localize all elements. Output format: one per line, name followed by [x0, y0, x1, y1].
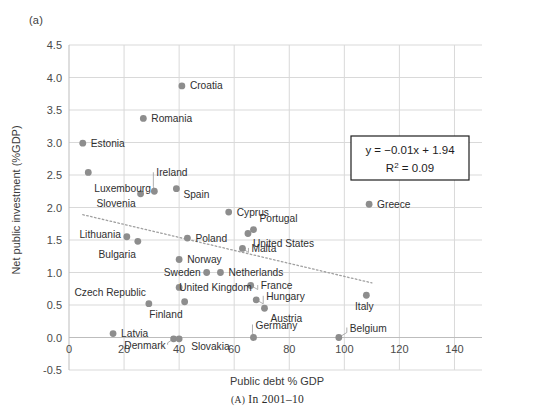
data-point-label: Slovenia: [96, 198, 135, 209]
data-point-label: Italy: [355, 301, 375, 312]
data-point-label: Greece: [377, 199, 411, 210]
data-point-marker: [176, 335, 183, 342]
y-tick-label: 1.5: [47, 234, 62, 246]
data-point-label: Latvia: [121, 328, 149, 339]
data-point-label: Estonia: [91, 138, 125, 149]
data-point-marker: [123, 233, 130, 240]
data-point-marker: [184, 235, 191, 242]
data-point-marker: [261, 305, 268, 312]
data-point-label: Portugal: [259, 213, 297, 224]
data-point-marker: [145, 300, 152, 307]
data-point-marker: [85, 169, 92, 176]
data-point-label: Norway: [187, 254, 222, 265]
equation-line: y = −0.01x + 1.94: [365, 144, 455, 156]
x-axis-title: Public debt % GDP: [230, 375, 324, 387]
data-point-marker: [250, 226, 257, 233]
data-point-label: Belgium: [350, 323, 387, 334]
scatter-plot: -0.50.00.51.01.52.02.53.03.54.04.5 02040…: [0, 0, 535, 392]
data-point-marker: [225, 209, 232, 216]
figure-caption: (A) In 2001–10: [0, 392, 535, 407]
regression-equation-box: y = −0.01x + 1.94 R2 = 0.09: [351, 136, 469, 180]
data-point-label: Bulgaria: [98, 249, 136, 260]
data-point-label: Czech Republic: [74, 287, 145, 298]
data-point-label: Romania: [151, 113, 192, 124]
data-point-marker: [203, 269, 210, 276]
y-tick-label: 2.5: [47, 169, 62, 181]
data-point-marker: [335, 334, 342, 341]
y-tick-label: -0.5: [43, 364, 62, 376]
data-point-label: Luxembourg: [94, 183, 151, 194]
data-point-label: Sweden: [164, 267, 201, 278]
y-tick-label: 3.0: [47, 137, 62, 149]
y-tick-label: 3.5: [47, 104, 62, 116]
x-tick-label: 60: [228, 343, 240, 355]
caption-text: In 2001–10: [248, 393, 304, 405]
y-axis-tick-labels: -0.50.00.51.01.52.02.53.03.54.04.5: [43, 39, 62, 376]
y-tick-label: 1.0: [47, 267, 62, 279]
y-tick-label: 4.5: [47, 39, 62, 51]
y-tick-label: 4.0: [47, 72, 62, 84]
data-point-marker: [178, 83, 185, 90]
data-point-marker: [245, 230, 252, 237]
r-squared-prefix: R: [386, 162, 394, 174]
data-point-marker: [176, 256, 183, 263]
data-point-label: United Kingdom: [179, 282, 252, 293]
data-point-label: Slovakia: [191, 341, 230, 352]
data-point-label: Malta: [251, 243, 276, 254]
figure-panel-a: (a) -0.50.00.51.01.52.02.53.03.54.04.5 0…: [0, 0, 535, 418]
data-point-label: Hungary: [266, 291, 305, 302]
data-point-label: Poland: [195, 233, 227, 244]
r-squared-line: R2 = 0.09: [386, 161, 434, 174]
data-point-marker: [363, 292, 370, 299]
y-tick-label: 0.5: [47, 299, 62, 311]
data-point-marker: [134, 238, 141, 245]
data-point-marker: [79, 140, 86, 147]
data-point-marker: [140, 115, 147, 122]
y-tick-label: 2.0: [47, 202, 62, 214]
data-point-label: Germany: [255, 320, 298, 331]
data-point-marker: [181, 298, 188, 305]
x-tick-label: 40: [173, 343, 185, 355]
data-point-label: Ireland: [156, 167, 187, 178]
x-tick-label: 140: [445, 343, 463, 355]
data-point-label: Finland: [149, 309, 183, 320]
data-point-marker: [173, 185, 180, 192]
x-tick-label: 120: [390, 343, 408, 355]
data-point-marker: [366, 201, 373, 208]
r-squared-value: = 0.09: [399, 162, 435, 174]
data-point-label: Netherlands: [228, 267, 283, 278]
x-tick-label: 80: [283, 343, 295, 355]
data-point-label: Denmark: [124, 340, 166, 351]
data-point-label: Spain: [183, 189, 209, 200]
data-point-marker: [253, 296, 260, 303]
data-points: [79, 83, 372, 343]
data-point-labels: CroatiaRomaniaEstoniaLuxembourgIrelandSp…: [74, 80, 410, 351]
data-point-marker: [110, 330, 117, 337]
data-point-label: Croatia: [190, 80, 223, 91]
data-point-marker: [250, 334, 257, 341]
x-tick-label: 0: [66, 343, 72, 355]
y-tick-label: 0.0: [47, 332, 62, 344]
x-tick-label: 100: [335, 343, 353, 355]
data-point-label: France: [261, 280, 293, 291]
data-point-marker: [239, 245, 246, 252]
y-axis-title: Net public investment (%GDP): [10, 125, 22, 274]
data-point-label: Lithuania: [79, 229, 121, 240]
data-point-marker: [151, 188, 158, 195]
data-point-marker: [217, 269, 224, 276]
caption-prefix: (A): [231, 395, 245, 405]
